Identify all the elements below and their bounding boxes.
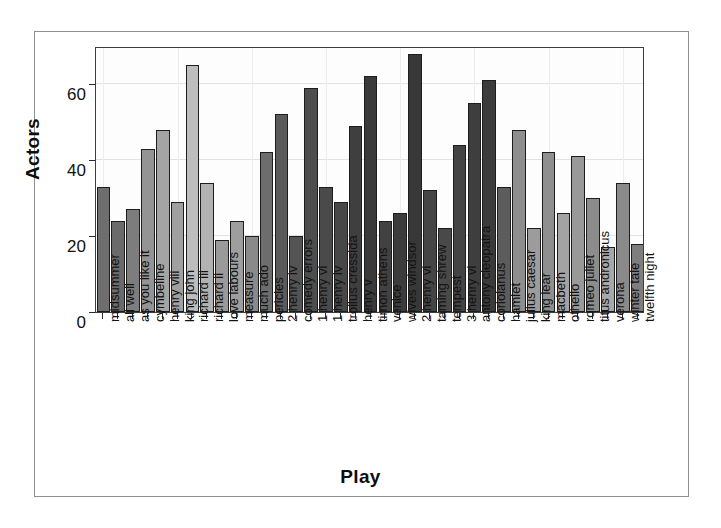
x-axis-tick-label: 2 henry vi bbox=[419, 266, 434, 322]
x-axis-tick-label: tempest bbox=[449, 276, 464, 322]
x-axis-tick-label: titus andronicus bbox=[597, 231, 612, 322]
x-axis-tick-label: 1 henry vi bbox=[315, 266, 330, 322]
x-axis-tick-label: 2 henry iv bbox=[285, 266, 300, 322]
x-axis-tick-label: love labours bbox=[226, 252, 241, 322]
x-axis-tick-label: midsummer bbox=[107, 254, 122, 322]
x-axis-tick-label: richard iii bbox=[196, 270, 211, 322]
x-axis-tick-label: romeo juliet bbox=[582, 255, 597, 322]
x-axis-tick-label: king lear bbox=[538, 273, 553, 322]
x-axis-tick-label: as you like it bbox=[137, 250, 152, 322]
x-axis-tick-label: othello bbox=[567, 284, 582, 322]
x-axis-tick-label: wives windsor bbox=[404, 241, 419, 322]
x-axis-tick-label: much ado bbox=[256, 265, 271, 322]
x-axis-tick-label: antony cleopatra bbox=[478, 226, 493, 322]
x-axis-tick-labels: midsummerall wellas you like itcymbeline… bbox=[95, 322, 644, 462]
x-axis-tick bbox=[102, 313, 103, 319]
x-axis-tick-label: verona bbox=[612, 282, 627, 322]
x-axis-tick-label: julius caesar bbox=[523, 250, 538, 322]
x-axis-tick-label: comedy errors bbox=[300, 239, 315, 322]
x-axis-tick-label: twelfth night bbox=[642, 253, 657, 322]
x-axis-tick-label: 1 henry iv bbox=[330, 266, 345, 322]
x-axis-tick-label: richard ii bbox=[211, 273, 226, 322]
x-axis-tick-label: troilus cressida bbox=[345, 235, 360, 322]
x-axis-tick-label: 3 henry vi bbox=[464, 266, 479, 322]
x-axis-tick-label: venice bbox=[389, 284, 404, 322]
figure-canvas: Actors 0204060 midsummerall wellas you l… bbox=[0, 0, 721, 528]
x-axis-tick-label: timon athens bbox=[375, 248, 390, 322]
x-axis-tick-label: coriolanus bbox=[493, 263, 508, 322]
x-axis-tick-label: hamlet bbox=[508, 283, 523, 322]
x-axis-tick-label: macbeth bbox=[553, 272, 568, 322]
x-axis-tick-label: henry viii bbox=[167, 271, 182, 322]
x-axis-title: Play bbox=[0, 466, 721, 488]
x-axis-tick-label: measure bbox=[241, 271, 256, 322]
x-axis-tick-label: taming shrew bbox=[434, 245, 449, 322]
x-axis-tick-label: all well bbox=[122, 283, 137, 322]
y-axis: 0204060 bbox=[88, 47, 95, 313]
x-axis-tick-label: pericles bbox=[271, 277, 286, 322]
x-axis-tick-label: king john bbox=[182, 270, 197, 322]
x-axis-tick-label: henry v bbox=[360, 279, 375, 322]
x-axis-tick-label: winter tale bbox=[627, 263, 642, 322]
y-axis-title: Actors bbox=[22, 118, 44, 180]
x-axis-tick-label: cymbeline bbox=[152, 263, 167, 322]
